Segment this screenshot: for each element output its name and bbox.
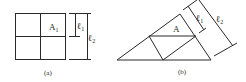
region-a1-label: A1 [49, 22, 59, 33]
triangle-inner-left-diagonal [149, 36, 163, 60]
dim-b-mid-extension [199, 28, 206, 33]
figure-a: A1 ℓ1 ℓ2 (a) [16, 14, 96, 78]
caption-b: (b) [178, 68, 187, 76]
region-a-label: A [173, 24, 180, 34]
dim-a-l1-label: ℓ1 [77, 21, 84, 32]
diagram-canvas: A1 ℓ1 ℓ2 (a) A ℓ1 ℓ2 (b) [0, 0, 246, 82]
figure-b: A ℓ1 ℓ2 (b) [117, 0, 237, 76]
dim-a-l2-label: ℓ2 [88, 33, 95, 44]
dim-b-l2-label: ℓ2 [216, 14, 223, 25]
dim-b-bottom-extension [214, 43, 237, 56]
triangle-inner-right-diagonal [163, 36, 196, 60]
caption-a: (a) [44, 69, 52, 77]
dim-b-l1-label: ℓ1 [196, 13, 203, 24]
figure-stage: A1 ℓ1 ℓ2 (a) A ℓ1 ℓ2 (b) [0, 0, 246, 82]
dim-b-top-extension [183, 0, 201, 10]
